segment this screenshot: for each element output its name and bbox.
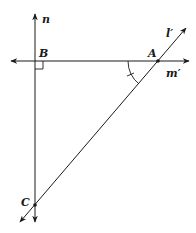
label-l-prime: l′ [166,27,173,40]
right-angle-marker-icon [35,61,43,69]
angle-arc-icon [128,61,139,84]
geometry-diagram: n m′ l′ A B C [0,0,196,233]
label-a: A [147,47,157,60]
point-a [156,59,160,63]
label-b: B [38,47,48,60]
label-c: C [21,196,30,209]
point-c [33,203,37,207]
label-m-prime: m′ [166,67,181,80]
label-n: n [42,13,50,26]
